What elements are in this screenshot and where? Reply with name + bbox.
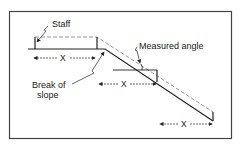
measured-angle-label: Measured angle	[139, 41, 204, 51]
slope-diagram: Staff Measured angle Break of slope X X …	[0, 0, 238, 145]
break-of-slope-leader	[72, 52, 104, 84]
distance-label-3: X	[181, 119, 187, 129]
distance-label-1: X	[60, 53, 66, 63]
distance-label-2: X	[121, 79, 127, 89]
break-of-slope-label-1: Break of	[32, 80, 66, 90]
staff-leader	[37, 26, 48, 42]
angle-arc	[141, 64, 142, 70]
diagram-frame	[10, 12, 232, 139]
staff-label: Staff	[52, 19, 71, 29]
break-of-slope-label-2: slope	[37, 90, 59, 100]
